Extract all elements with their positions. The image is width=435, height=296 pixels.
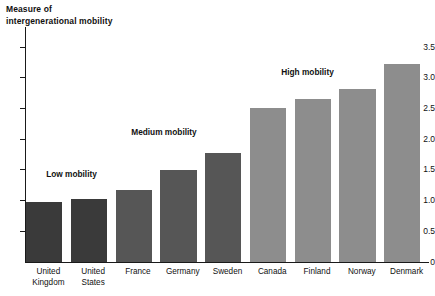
bar (295, 99, 331, 262)
bar (26, 202, 62, 262)
y-axis-tick (20, 231, 25, 232)
bar (250, 108, 286, 262)
group-annotation-label: Medium mobility (131, 128, 196, 137)
bars-container (26, 20, 429, 262)
bar (71, 199, 107, 262)
bar (339, 89, 375, 262)
y-axis-tick (20, 108, 25, 109)
y-axis-tick (20, 77, 25, 78)
x-axis-label: Denmark (380, 267, 433, 278)
x-axis-line (25, 262, 429, 263)
bar-chart: Measure of intergenerational mobility 00… (0, 0, 435, 296)
bar (160, 170, 196, 262)
group-annotation-label: High mobility (281, 68, 334, 77)
y-axis-tick (20, 47, 25, 48)
y-axis-tick (20, 139, 25, 140)
y-axis-tick (20, 200, 25, 201)
group-annotation-label: Low mobility (46, 170, 97, 179)
bar (205, 153, 241, 262)
bar (384, 64, 420, 262)
bar (116, 190, 152, 262)
y-axis-tick (20, 169, 25, 170)
